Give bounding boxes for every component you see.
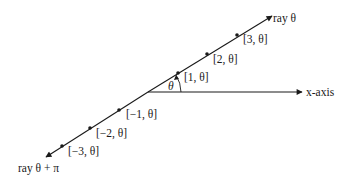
point-dot xyxy=(235,33,239,37)
point-neg-2: [−2, θ] xyxy=(88,126,127,140)
point-label: [2, θ] xyxy=(213,53,238,66)
x-axis-label: x-axis xyxy=(306,86,335,98)
opposite-ray-label: ray θ + π xyxy=(18,162,59,175)
point-label: [−3, θ] xyxy=(68,145,99,158)
angle-label: θ xyxy=(168,80,174,92)
point-dot xyxy=(88,126,92,130)
point-label: [1, θ] xyxy=(184,71,209,84)
point-dot xyxy=(60,144,64,148)
point-1: [1, θ] xyxy=(176,71,208,84)
point-label: [3, θ] xyxy=(243,33,268,46)
point-neg-1: [−1, θ] xyxy=(117,108,157,121)
point-dot xyxy=(176,71,180,75)
ray-label: ray θ xyxy=(273,12,297,25)
point-label: [−2, θ] xyxy=(96,127,127,140)
point-dot xyxy=(205,52,209,56)
ray-line xyxy=(148,16,272,92)
point-label: [−1, θ] xyxy=(126,108,157,121)
polar-ray-diagram: θ [3, θ] [2, θ] [1, θ] [−1, θ] [−2, θ] [… xyxy=(0,0,355,177)
point-dot xyxy=(117,108,121,112)
point-neg-3: [−3, θ] xyxy=(60,144,99,158)
